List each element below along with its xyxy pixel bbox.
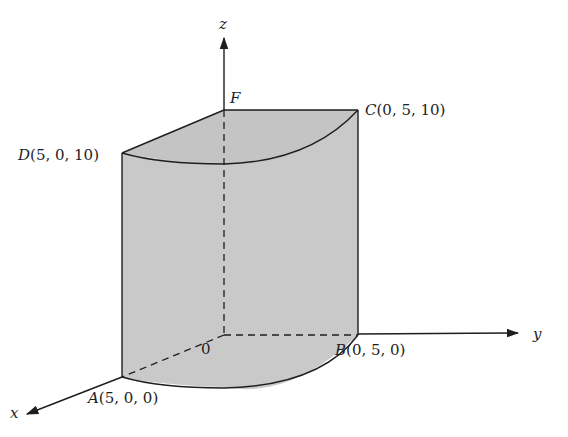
point-c-coords: (0, 5, 10): [376, 101, 445, 119]
x-axis-label: x: [10, 404, 19, 422]
point-c-label: C(0, 5, 10): [365, 101, 445, 119]
point-b-coords: (0, 5, 0): [346, 341, 405, 359]
point-c-name: C: [365, 101, 377, 119]
point-b-name: B: [334, 341, 346, 359]
z-axis-label: z: [218, 15, 227, 33]
point-f-name: F: [229, 89, 241, 107]
point-d-label: D(5, 0, 10): [17, 146, 99, 164]
point-a-name: A: [86, 389, 99, 407]
point-d-coords: (5, 0, 10): [30, 146, 99, 164]
origin-label: 0: [201, 340, 211, 358]
y-axis: [358, 333, 518, 334]
point-f-label: F: [229, 89, 241, 107]
point-b-label: B(0, 5, 0): [334, 341, 405, 359]
point-a-label: A(5, 0, 0): [86, 389, 158, 407]
point-a-coords: (5, 0, 0): [99, 389, 158, 407]
point-d-name: D: [17, 146, 30, 164]
y-axis-label: y: [532, 325, 542, 343]
quarter-cylinder-diagram: z y x 0 F C(0, 5, 10) D(5, 0, 10) A(5, 0…: [0, 0, 568, 437]
